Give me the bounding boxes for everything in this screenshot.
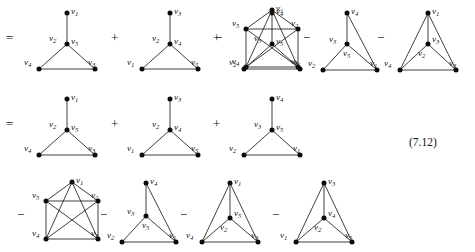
vertex-label-center-right: v4	[174, 36, 182, 47]
row1-equals: =	[6, 31, 13, 44]
vertex-label-top: v4	[276, 92, 284, 103]
vertex-label-bottom-right: v5	[191, 143, 199, 154]
vertex-label-top: v1	[71, 92, 78, 103]
row2-op-3: +	[213, 117, 220, 130]
vertex-label-top: v1	[276, 3, 283, 14]
row1-op-4: −	[215, 31, 222, 44]
vertex-label-bottom-right: v1	[293, 143, 300, 154]
vertex-label-bottom-right: v1	[370, 58, 377, 69]
row3-op-2: −	[100, 208, 107, 221]
vertex-label-upper-left: v5	[32, 190, 40, 201]
vertex-label-top: v3	[174, 92, 182, 103]
vertex-label-bottom-left: v4	[232, 56, 240, 67]
graph-r3-g4: v3 v4 v2 v1 v5	[284, 174, 364, 250]
vertex-label-bottom-left: v4	[24, 57, 32, 68]
vertex-label-bottom-right: v1	[169, 230, 176, 241]
vertex-label-center-left: v2	[49, 119, 57, 130]
vertex-label-bottom-right: v5	[345, 230, 353, 241]
vertex-label-center-left: v2	[49, 33, 57, 44]
row3-op-3: −	[180, 208, 187, 221]
row1-op-6: −	[377, 31, 384, 44]
graph-r1-g6: v1 v3 v2 v4 v3	[388, 4, 468, 78]
graph-r1-g4: v1 v5 v2 v4 v3	[232, 2, 312, 78]
vertex-label-top: v1	[432, 6, 439, 17]
vertex-label-bottom-left: v4	[384, 58, 392, 69]
vertex-label-mid-low: v2	[314, 222, 322, 233]
vertex-label-center-left: v3	[254, 119, 262, 130]
vertex-label-mid: v3	[127, 206, 135, 217]
vertex-label-upper-left: v5	[232, 18, 240, 29]
vertex-label-mid-low: v2	[220, 222, 228, 233]
vertex-label-bottom-right: v3	[449, 58, 457, 69]
vertex-label-top: v1	[71, 6, 78, 17]
vertex-label-bottom-left: v1	[127, 57, 134, 68]
vertex-label-top: v4	[351, 6, 359, 17]
graph-r2-g2: v3 v2 v4 v1 v5	[127, 90, 213, 164]
vertex-label-bottom-left: v2	[308, 58, 316, 69]
vertex-label-bottom-left: v4	[32, 228, 40, 239]
row1-op-2: +	[111, 31, 118, 44]
vertex-label-center-right: v5	[276, 122, 284, 133]
vertex-label-upper-right: v2	[291, 18, 299, 29]
vertex-label-mid-low: v2	[418, 48, 426, 59]
vertex-label-top: v3	[174, 6, 182, 17]
vertex-label-bottom-left: v4	[24, 143, 32, 154]
vertex-label-mid: v5	[234, 208, 242, 219]
vertex-label-center-right: v5	[71, 122, 79, 133]
vertex-label-bottom-right: v3	[88, 57, 96, 68]
graph-r3-g3: v1 v5 v2 v4 v3	[190, 174, 270, 250]
graph-r3-g2: v4 v3 v5 v2 v1	[112, 174, 188, 250]
vertex-label-mid: v4	[328, 208, 336, 219]
figure-canvas: = v1 v2 v5 v4 v3 +	[0, 0, 475, 252]
vertex-label-mid-low: v5	[343, 48, 351, 59]
vertex-label-mid-low: v5	[142, 220, 150, 231]
vertex-label-top: v1	[76, 175, 83, 186]
row2-equals: =	[6, 117, 13, 130]
row3-op-1: −	[17, 208, 24, 221]
vertex-label-bottom-right: v5	[191, 57, 199, 68]
vertex-label-bottom-left: v1	[127, 143, 134, 154]
vertex-label-bottom-left: v2	[229, 143, 237, 154]
equation-number: (7.12)	[409, 136, 437, 148]
row1-op-5: −	[303, 31, 310, 44]
graph-r2-g1: v1 v2 v5 v4 v3	[24, 90, 110, 164]
row3-op-4: −	[272, 208, 279, 221]
vertex-label-mid: v3	[329, 34, 337, 45]
graph-r1-g2: v3 v2 v4 v1 v5	[127, 4, 213, 78]
vertex-label-top: v4	[150, 176, 158, 187]
vertex-label-upper-right: v2	[91, 190, 99, 201]
vertex-label-center-left: v2	[152, 33, 160, 44]
vertex-label-top: v3	[328, 176, 336, 187]
vertex-label-bottom-right: v3	[251, 230, 259, 241]
vertex-label-bottom-left: v2	[107, 230, 115, 241]
vertex-label-center-right: v5	[71, 36, 79, 47]
graph-r1-g1: v1 v2 v5 v4 v3	[24, 4, 110, 78]
vertex-label-bottom-left: v4	[186, 230, 194, 241]
vertex-label-center-right: v4	[174, 122, 182, 133]
vertex-label-bottom-right: v3	[88, 143, 96, 154]
vertex-label-bottom-left: v1	[280, 230, 287, 241]
vertex-label-top: v1	[234, 176, 241, 187]
row2-op-2: +	[111, 117, 118, 130]
vertex-label-center-left: v2	[152, 119, 160, 130]
graph-r2-g3: v4 v3 v5 v2 v1	[229, 90, 315, 164]
